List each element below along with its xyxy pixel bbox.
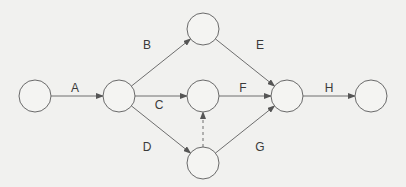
event-node-n6 bbox=[271, 80, 303, 112]
activity-label-c: C bbox=[155, 98, 164, 112]
activity-arrow-e bbox=[216, 39, 275, 86]
activity-label-a: A bbox=[71, 81, 79, 95]
event-node-n5 bbox=[187, 147, 219, 179]
event-node-n4 bbox=[187, 80, 219, 112]
event-node-n1 bbox=[19, 80, 51, 112]
diagram-canvas bbox=[0, 0, 406, 187]
activity-arrow-d bbox=[132, 106, 191, 153]
activity-label-b: B bbox=[143, 38, 151, 52]
event-node-n3 bbox=[187, 13, 219, 45]
activity-label-g: G bbox=[255, 140, 264, 154]
activity-label-e: E bbox=[256, 38, 264, 52]
activity-arrow-g bbox=[216, 106, 275, 153]
activity-label-d: D bbox=[143, 140, 152, 154]
event-node-n7 bbox=[355, 80, 387, 112]
activity-label-f: F bbox=[239, 81, 246, 95]
activity-label-h: H bbox=[325, 81, 334, 95]
event-node-n2 bbox=[103, 80, 135, 112]
activity-arrow-b bbox=[132, 39, 191, 86]
network-diagram: ABCDEFGH bbox=[0, 0, 406, 187]
